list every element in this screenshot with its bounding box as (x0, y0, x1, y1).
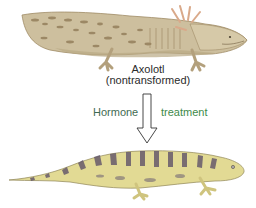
down-arrow-icon (137, 94, 157, 143)
hormone-label: Hormone (93, 106, 138, 118)
treatment-label: treatment (161, 106, 207, 118)
axolotl-subtitle: (nontransformed) (0, 74, 256, 86)
figure-canvas: Axolotl (nontransformed) Hormone treatme… (0, 0, 256, 208)
illustration (0, 0, 256, 208)
salamander-illustration (9, 151, 244, 199)
axolotl-illustration (22, 6, 247, 70)
